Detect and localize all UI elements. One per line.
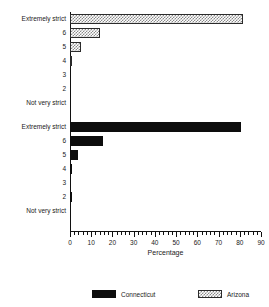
legend-item-connecticut: Connecticut <box>92 288 155 300</box>
x-tick-major <box>219 232 220 237</box>
x-tick-minor <box>95 232 96 235</box>
x-tick-major <box>70 232 71 237</box>
x-tick-minor <box>236 232 237 235</box>
x-tick-minor <box>159 232 160 235</box>
bar-row: 5 <box>70 40 261 54</box>
bar-row: 2 <box>70 82 261 96</box>
x-tick-minor <box>227 232 228 235</box>
legend-label-connecticut: Connecticut <box>121 290 155 299</box>
x-tick-minor <box>189 232 190 235</box>
x-tick-minor <box>129 232 130 235</box>
x-tick-label: 20 <box>109 238 116 247</box>
x-tick-minor <box>185 232 186 235</box>
x-tick-minor <box>253 232 254 235</box>
category-label: 4 <box>0 54 66 68</box>
legend-swatch-connecticut-icon <box>92 290 116 298</box>
x-tick-minor <box>104 232 105 235</box>
x-tick-major <box>134 232 135 237</box>
x-tick-minor <box>257 232 258 235</box>
x-axis-title: Percentage <box>70 249 261 256</box>
x-tick-label: 0 <box>68 238 72 247</box>
category-label: 6 <box>0 26 66 40</box>
x-tick-minor <box>172 232 173 235</box>
x-tick-label: 40 <box>151 238 158 247</box>
bar-row: 2 <box>70 190 261 204</box>
x-axis-tick-labels: 0102030405060708090 <box>70 238 261 248</box>
x-tick-minor <box>214 232 215 235</box>
bar-arizona <box>70 56 72 66</box>
x-tick-minor <box>248 232 249 235</box>
bar-row: 4 <box>70 162 261 176</box>
x-tick-minor <box>168 232 169 235</box>
x-tick-minor <box>146 232 147 235</box>
category-label: 6 <box>0 134 66 148</box>
x-tick-label: 50 <box>172 238 179 247</box>
category-label: 3 <box>0 68 66 82</box>
x-tick-label: 90 <box>257 238 264 247</box>
x-tick-label: 70 <box>215 238 222 247</box>
chart-legend: Connecticut Arizona <box>0 288 269 302</box>
x-tick-major <box>240 232 241 237</box>
x-tick-minor <box>193 232 194 235</box>
x-tick-minor <box>83 232 84 235</box>
bar-connecticut <box>70 164 72 174</box>
x-tick-minor <box>163 232 164 235</box>
bar-row: 6 <box>70 26 261 40</box>
x-tick-minor <box>210 232 211 235</box>
category-label: Not very strict <box>0 204 66 218</box>
bar-connecticut <box>70 122 241 132</box>
x-tick-minor <box>100 232 101 235</box>
bar-row: 3 <box>70 176 261 190</box>
x-tick-minor <box>74 232 75 235</box>
x-tick-minor <box>223 232 224 235</box>
bar-connecticut <box>70 136 103 146</box>
bar-arizona <box>70 14 243 24</box>
x-tick-major <box>176 232 177 237</box>
x-tick-label: 80 <box>236 238 243 247</box>
legend-item-arizona: Arizona <box>198 288 249 300</box>
bar-row: 4 <box>70 54 261 68</box>
bar-connecticut <box>70 192 72 202</box>
x-tick-minor <box>78 232 79 235</box>
category-label: Extremely strict <box>0 120 66 134</box>
bar-row: Extremely strict <box>70 12 261 26</box>
x-tick-minor <box>121 232 122 235</box>
x-tick-major <box>112 232 113 237</box>
x-tick-major <box>261 232 262 237</box>
bar-arizona <box>70 28 100 38</box>
x-tick-major <box>155 232 156 237</box>
x-tick-minor <box>206 232 207 235</box>
category-label: Not very strict <box>0 96 66 110</box>
x-tick-minor <box>231 232 232 235</box>
bar-row: Extremely strict <box>70 120 261 134</box>
bar-row: 6 <box>70 134 261 148</box>
x-tick-label: 30 <box>130 238 137 247</box>
x-tick-major <box>197 232 198 237</box>
legend-swatch-arizona-icon <box>198 290 222 298</box>
bar-arizona <box>70 42 81 52</box>
grouped-bar-chart: Extremely strict65432Not very strictExtr… <box>0 0 269 307</box>
plot-area: Extremely strict65432Not very strictExtr… <box>70 12 261 231</box>
x-tick-minor <box>151 232 152 235</box>
bar-row: 5 <box>70 148 261 162</box>
x-tick-minor <box>87 232 88 235</box>
category-label: 2 <box>0 82 66 96</box>
x-tick-minor <box>138 232 139 235</box>
x-tick-minor <box>125 232 126 235</box>
category-label: 5 <box>0 40 66 54</box>
category-label: 3 <box>0 176 66 190</box>
bar-row: Not very strict <box>70 96 261 110</box>
x-tick-minor <box>180 232 181 235</box>
x-tick-minor <box>108 232 109 235</box>
x-tick-label: 60 <box>194 238 201 247</box>
x-tick-major <box>91 232 92 237</box>
x-tick-minor <box>244 232 245 235</box>
category-label: Extremely strict <box>0 12 66 26</box>
x-tick-minor <box>202 232 203 235</box>
bar-connecticut <box>70 150 78 160</box>
category-label: 2 <box>0 190 66 204</box>
x-tick-label: 10 <box>88 238 95 247</box>
category-label: 4 <box>0 162 66 176</box>
category-label: 5 <box>0 148 66 162</box>
bar-row: Not very strict <box>70 204 261 218</box>
